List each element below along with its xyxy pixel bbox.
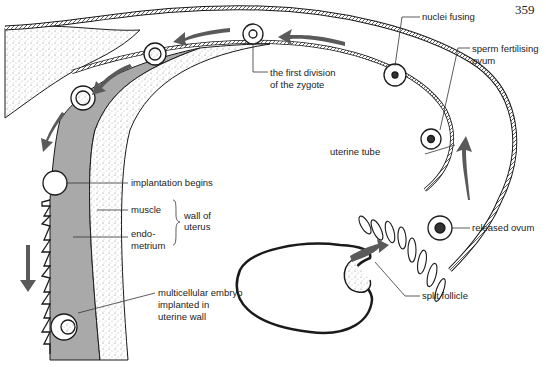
uterine-tube-fertilisation-diagram: 359 — [0, 0, 546, 367]
label-first-division-2: of the zygote — [270, 79, 324, 90]
label-split-follicle: split follicle — [422, 290, 468, 301]
label-first-division-1: the first division — [270, 67, 335, 78]
label-embryo-1: multicellular embryo — [158, 287, 242, 298]
arrow-up-icon — [456, 136, 472, 200]
arrow-down-icon — [20, 245, 36, 292]
label-implantation-begins: implantation begins — [131, 177, 213, 188]
implanting-blastocyst-icon — [43, 171, 67, 195]
label-embryo-3: uterine wall — [158, 311, 206, 322]
label-nuclei-fusing: nuclei fusing — [422, 11, 475, 22]
label-endometrium-2: metrium — [131, 240, 165, 251]
label-released-ovum: released ovum — [472, 222, 534, 233]
label-wall-of-uterus-2: uterus — [184, 221, 211, 232]
label-embryo-2: implanted in — [158, 299, 209, 310]
label-sperm-fertilising-2: ovum — [472, 55, 495, 66]
label-wall-of-uterus-1: wall of — [183, 210, 211, 221]
label-uterine-tube: uterine tube — [330, 146, 380, 157]
page-number: 359 — [515, 2, 535, 17]
endometrium-villi — [42, 200, 50, 354]
label-endometrium-1: endo- — [131, 228, 155, 239]
label-sperm-fertilising-1: sperm fertilising — [472, 43, 539, 54]
label-muscle: muscle — [131, 204, 161, 215]
